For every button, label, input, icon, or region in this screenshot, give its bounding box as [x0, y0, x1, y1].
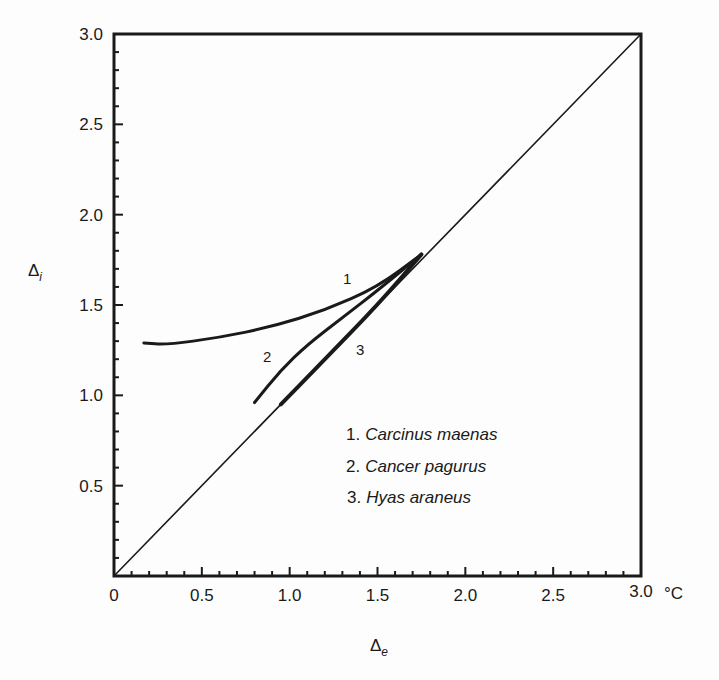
x-tick-label: 0	[109, 586, 118, 605]
legend-species: Carcinus maenas	[365, 425, 498, 444]
y-axis-subscript: i	[39, 270, 42, 284]
legend-num: 3.	[347, 488, 361, 507]
y-tick-labels: 0.51.01.52.02.53.0	[79, 25, 103, 496]
x-tick-label: 1.0	[278, 586, 302, 605]
x-unit-label: °C	[664, 584, 683, 603]
legend-num: 2.	[346, 457, 360, 476]
y-tick-label: 2.0	[79, 206, 103, 225]
x-tick-label: 2.5	[541, 586, 565, 605]
x-axis-title: Δe	[370, 636, 388, 659]
legend: 1.Carcinus maenas 2.Cancer pagurus 3.Hya…	[346, 425, 498, 507]
legend-item-3: 3.Hyas araneus	[347, 488, 472, 507]
legend-item-1: 1.Carcinus maenas	[346, 425, 498, 444]
y-axis-title: Δi	[28, 261, 42, 284]
chart-canvas: 00.51.01.52.02.53.0 0.51.01.52.02.53.0 °…	[0, 0, 719, 680]
x-tick-label: 3.0	[629, 582, 653, 601]
legend-item-2: 2.Cancer pagurus	[346, 457, 487, 476]
curve-label-2: 2	[263, 348, 271, 365]
x-tick-labels: 00.51.01.52.02.53.0	[109, 582, 653, 605]
series-line-2	[255, 254, 422, 402]
x-tick-label: 1.5	[366, 586, 390, 605]
y-tick-label: 1.5	[79, 296, 103, 315]
curve-label-1: 1	[343, 270, 351, 287]
y-tick-label: 0.5	[79, 477, 103, 496]
y-tick-label: 2.5	[79, 115, 103, 134]
curve-label-3: 3	[356, 341, 364, 358]
y-tick-label: 3.0	[79, 25, 103, 44]
legend-species: Cancer pagurus	[365, 457, 486, 476]
legend-species: Hyas araneus	[366, 488, 471, 507]
x-axis-subscript: e	[381, 645, 388, 659]
legend-num: 1.	[346, 425, 360, 444]
x-tick-label: 2.0	[454, 586, 478, 605]
x-tick-label: 0.5	[190, 586, 214, 605]
y-tick-label: 1.0	[79, 386, 103, 405]
